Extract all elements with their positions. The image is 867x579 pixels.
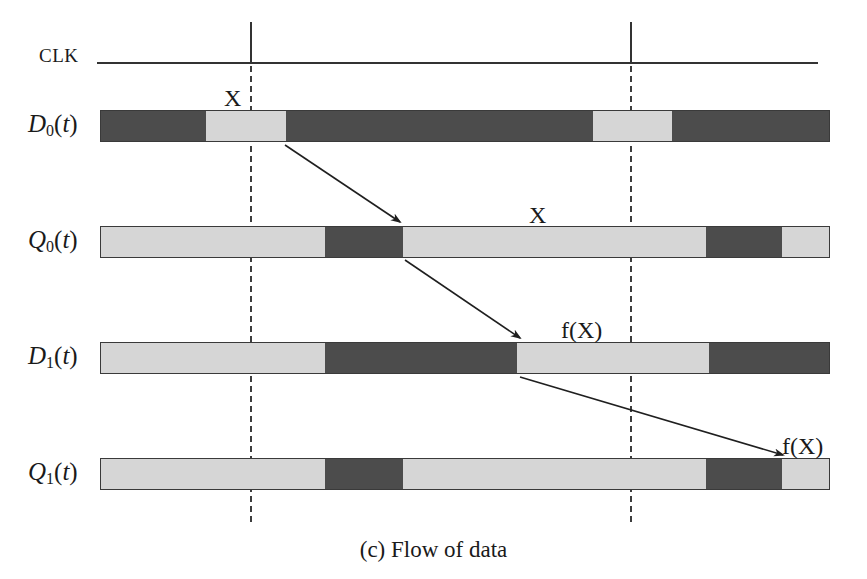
clk-label: CLK — [39, 46, 79, 65]
signal-label-subscript: 0 — [46, 122, 54, 139]
timing-diagram-figure: CLK D0(t)Q0(t)D1(t)Q1(t) XXf(X)f(X) (c) … — [0, 0, 867, 579]
clock-edge-1-tick — [250, 22, 252, 62]
annotation-fx-on-q1: f(X) — [782, 434, 823, 458]
arrow-q0-to-d1 — [405, 260, 520, 338]
signal-label-q0: Q0(t) — [28, 227, 78, 255]
signal-label-q1: Q1(t) — [28, 459, 78, 487]
waveform-segment-dark — [325, 343, 516, 373]
annotation-fx-on-d1: f(X) — [561, 318, 602, 342]
waveform-segment-light — [782, 459, 829, 489]
arrow-d0-to-q0 — [285, 145, 400, 222]
arrow-d1-to-q1 — [520, 377, 783, 455]
signal-label-subscript: 1 — [46, 354, 54, 371]
waveform-segment-dark — [101, 111, 206, 141]
waveform-d0 — [100, 110, 830, 142]
waveform-segment-dark — [709, 343, 829, 373]
annotation-x-on-d0: X — [224, 86, 241, 110]
waveform-segment-light — [206, 111, 286, 141]
signal-label-subscript: 0 — [46, 238, 54, 255]
signal-label-argument: (t) — [54, 458, 78, 485]
waveform-q0 — [100, 226, 830, 258]
waveform-segment-dark — [325, 227, 403, 257]
signal-label-argument: (t) — [54, 342, 78, 369]
waveform-segment-dark — [286, 111, 593, 141]
annotation-x-on-q0: X — [529, 203, 546, 227]
waveform-segment-dark — [672, 111, 829, 141]
signal-label-base: Q — [28, 458, 46, 485]
signal-label-argument: (t) — [54, 110, 78, 137]
waveform-segment-light — [403, 459, 706, 489]
waveform-d1 — [100, 342, 830, 374]
clock-edge-2-tick — [630, 22, 632, 62]
signal-label-d0: D0(t) — [28, 111, 78, 139]
waveform-segment-light — [101, 459, 325, 489]
waveform-segment-light — [101, 343, 325, 373]
signal-label-base: D — [28, 110, 46, 137]
figure-caption: (c) Flow of data — [0, 538, 867, 561]
waveform-segment-light — [101, 227, 325, 257]
signal-label-d1: D1(t) — [28, 343, 78, 371]
waveform-segment-light — [517, 343, 709, 373]
signal-label-subscript: 1 — [46, 470, 54, 487]
waveform-segment-dark — [706, 459, 782, 489]
signal-label-base: D — [28, 342, 46, 369]
signal-label-base: Q — [28, 226, 46, 253]
waveform-segment-light — [403, 227, 706, 257]
flow-arrow-layer — [0, 0, 867, 579]
signal-label-argument: (t) — [54, 226, 78, 253]
clk-baseline — [97, 62, 818, 64]
waveform-segment-dark — [325, 459, 403, 489]
waveform-segment-dark — [706, 227, 782, 257]
waveform-segment-light — [593, 111, 673, 141]
waveform-q1 — [100, 458, 830, 490]
waveform-segment-light — [782, 227, 829, 257]
